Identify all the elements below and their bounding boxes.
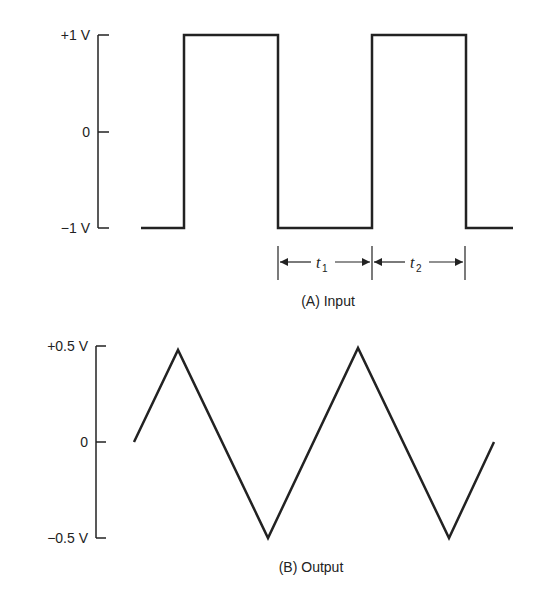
input-tick-label-bottom: −1 V	[61, 220, 91, 236]
input-y-axis	[98, 35, 109, 228]
output-tick-label-mid: 0	[80, 434, 88, 450]
triangle-wave	[134, 348, 494, 538]
output-y-axis	[96, 346, 106, 538]
svg-text:2: 2	[416, 263, 422, 274]
output-panel: +0.5 V 0 −0.5 V (B) Output	[47, 338, 494, 575]
interval-label-t2: t 2	[410, 254, 422, 274]
svg-text:1: 1	[322, 263, 328, 274]
input-tick-label-mid: 0	[82, 124, 90, 140]
svg-text:t: t	[316, 254, 321, 271]
waveform-diagram: +1 V 0 −1 V t 1 t 2 (A) Input	[0, 0, 542, 593]
svg-text:t: t	[410, 254, 415, 271]
interval-markers	[278, 246, 465, 280]
input-panel: +1 V 0 −1 V t 1 t 2 (A) Input	[61, 27, 513, 309]
output-tick-label-bottom: −0.5 V	[47, 530, 89, 546]
interval-label-t1: t 1	[316, 254, 328, 274]
square-wave	[141, 35, 513, 228]
output-caption: (B) Output	[279, 559, 344, 575]
input-tick-label-top: +1 V	[61, 27, 91, 43]
input-caption: (A) Input	[301, 293, 355, 309]
output-tick-label-top: +0.5 V	[47, 338, 89, 354]
